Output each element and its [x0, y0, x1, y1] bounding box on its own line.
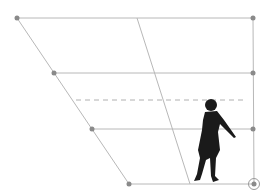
- control-point-mid-right-2[interactable]: [251, 127, 256, 132]
- left-edge: [17, 18, 129, 184]
- control-point-mid-left-1[interactable]: [52, 71, 57, 76]
- human-silhouette-icon: [194, 99, 236, 182]
- perspective-canvas[interactable]: [0, 0, 270, 196]
- control-point-top-right[interactable]: [251, 16, 256, 21]
- control-point-top-left[interactable]: [15, 16, 20, 21]
- control-point-bottom-left[interactable]: [127, 182, 132, 187]
- diagonal-line: [137, 18, 190, 184]
- control-point-mid-right-1[interactable]: [251, 71, 256, 76]
- perspective-grid: [0, 0, 270, 196]
- right-edge: [253, 18, 254, 184]
- control-point-mid-left-2[interactable]: [90, 127, 95, 132]
